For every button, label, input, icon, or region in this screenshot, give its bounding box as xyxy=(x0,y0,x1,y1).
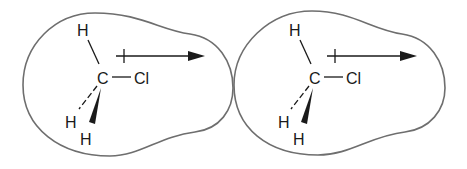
atom-cl-left: Cl xyxy=(134,70,149,87)
atom-c-left: C xyxy=(97,70,109,87)
bond-c-h-dashed-right xyxy=(291,86,309,109)
dipole-dipole-diagram: H C Cl H H H C Cl H H xyxy=(0,0,467,169)
bond-c-h-top-right xyxy=(300,40,311,64)
atom-h-wedge-right: H xyxy=(293,131,305,148)
electron-density-outline-right xyxy=(234,11,445,155)
electron-density-outline-left xyxy=(23,13,233,156)
molecule-left: H C Cl H H xyxy=(23,13,233,156)
atom-c-right: C xyxy=(309,70,321,87)
atom-h-top-right: H xyxy=(289,22,301,39)
atom-h-top-left: H xyxy=(77,22,89,39)
atom-h-dash-left: H xyxy=(65,114,77,131)
atom-cl-right: Cl xyxy=(346,70,361,87)
dipole-arrow-right xyxy=(327,49,417,63)
atom-h-dash-right: H xyxy=(278,114,290,131)
molecule-right: H C Cl H H xyxy=(234,11,445,155)
bond-c-h-top-left xyxy=(88,40,99,64)
bond-c-h-dashed-left xyxy=(79,86,97,109)
dipole-arrow-left xyxy=(116,49,205,63)
atom-h-wedge-left: H xyxy=(80,131,92,148)
